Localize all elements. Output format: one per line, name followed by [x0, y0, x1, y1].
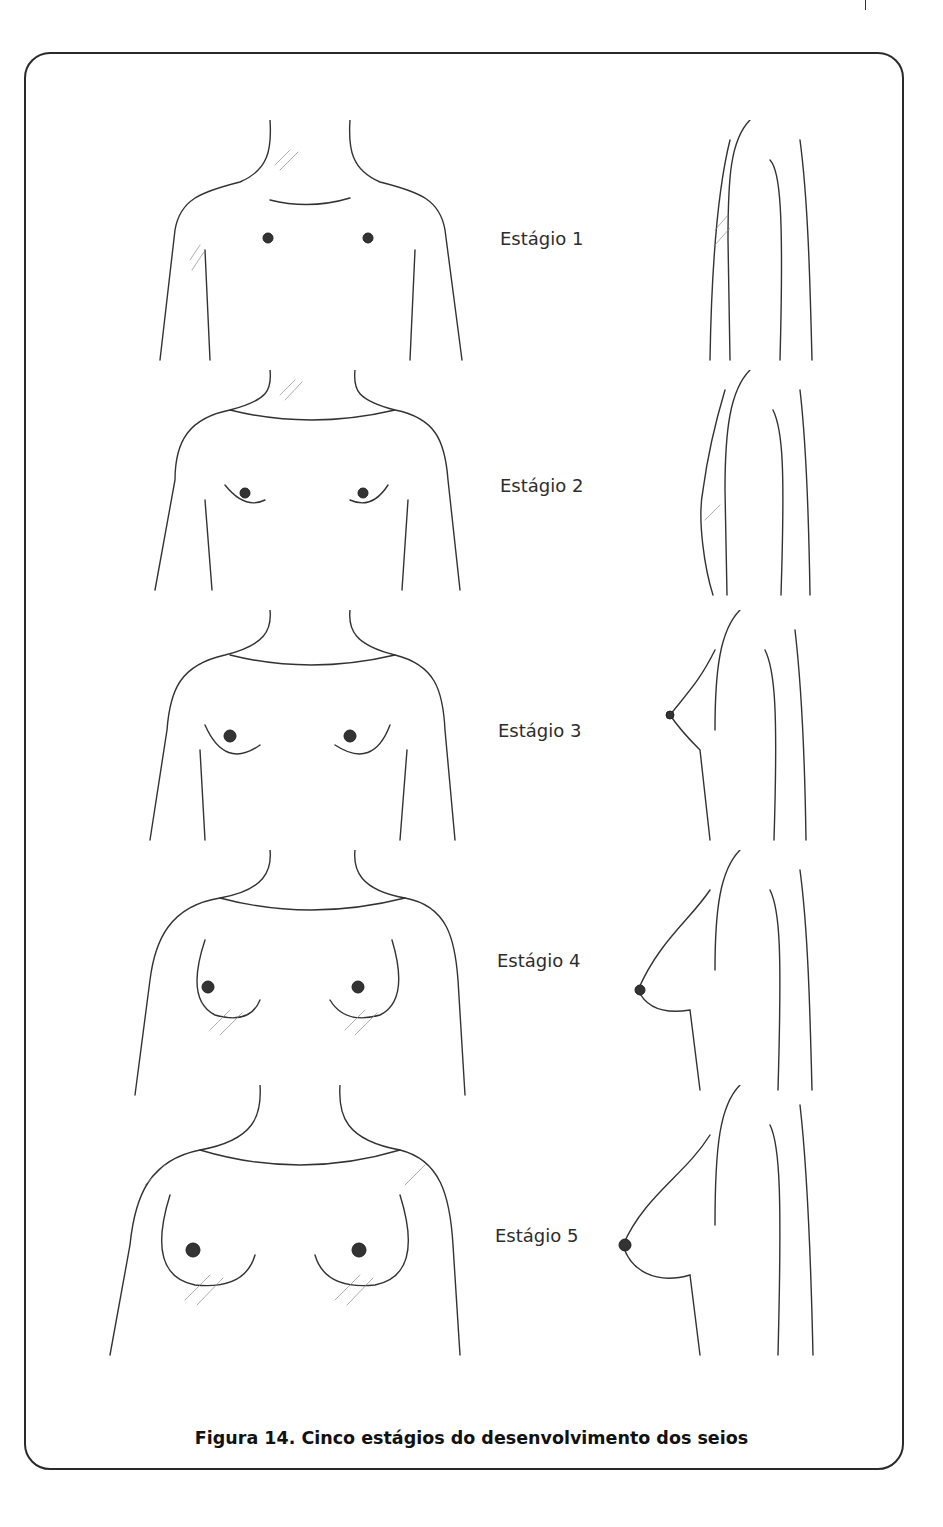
- page-margin-mark: [865, 0, 866, 10]
- stage-row-5: Estágio 5: [0, 1085, 943, 1375]
- front-view-illustration-stage-2: [150, 370, 470, 600]
- stage-label: Estágio 4: [497, 950, 580, 971]
- front-view-illustration-stage-1: [150, 120, 470, 370]
- stage-label: Estágio 3: [498, 720, 581, 741]
- side-view-illustration-stage-1: [700, 120, 820, 370]
- stage-row-2: Estágio 2: [0, 370, 943, 600]
- front-view-illustration-stage-4: [130, 850, 470, 1100]
- stage-label: Estágio 1: [500, 228, 583, 249]
- stage-row-3: Estágio 3: [0, 610, 943, 860]
- stage-row-1: Estágio 1: [0, 120, 943, 380]
- side-view-illustration-stage-3: [660, 610, 810, 850]
- side-view-illustration-stage-4: [630, 850, 830, 1100]
- front-view-illustration-stage-5: [105, 1085, 465, 1365]
- figure-caption: Figura 14. Cinco estágios do desenvolvim…: [0, 1428, 943, 1448]
- side-view-illustration-stage-2: [685, 370, 815, 600]
- stage-label: Estágio 2: [500, 475, 583, 496]
- stage-label: Estágio 5: [495, 1225, 578, 1246]
- stage-row-4: Estágio 4: [0, 850, 943, 1100]
- side-view-illustration-stage-5: [615, 1085, 830, 1365]
- front-view-illustration-stage-3: [145, 610, 465, 850]
